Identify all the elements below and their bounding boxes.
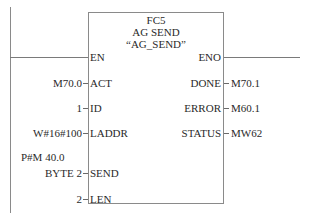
pin-eno: ENO: [198, 51, 221, 63]
eno-wire: [223, 57, 300, 58]
pin-send: SEND: [90, 167, 119, 179]
param-laddr-value[interactable]: W#16#100: [33, 127, 82, 139]
param-send-pointer[interactable]: P#M 40.0: [21, 151, 64, 163]
param-len-value[interactable]: 2: [77, 193, 83, 205]
left-power-rail: [10, 7, 11, 213]
param-send-value[interactable]: BYTE 2: [45, 167, 82, 179]
pin-act-stub: [83, 83, 88, 84]
block-number: FC5: [88, 14, 224, 26]
pin-id: ID: [90, 102, 102, 114]
pin-laddr-stub: [83, 133, 88, 134]
pin-len: LEN: [90, 193, 111, 205]
pin-en: EN: [90, 51, 105, 63]
pin-status-stub: [224, 133, 229, 134]
pin-act: ACT: [90, 77, 112, 89]
function-block-header: FC5 AG SEND “AG_SEND”: [88, 14, 224, 50]
param-id-value[interactable]: 1: [77, 102, 83, 114]
pin-error: ERROR: [184, 102, 221, 114]
pin-done-stub: [224, 83, 229, 84]
pin-done: DONE: [190, 77, 221, 89]
en-wire: [10, 57, 88, 58]
param-act-value[interactable]: M70.0: [53, 77, 82, 89]
pin-error-stub: [224, 108, 229, 109]
param-status-value[interactable]: MW62: [231, 127, 262, 139]
pin-laddr: LADDR: [90, 127, 128, 139]
block-name: AG SEND: [88, 26, 224, 38]
ladder-diagram: FC5 AG SEND “AG_SEND” EN M70.0 ACT 1 ID …: [0, 0, 310, 219]
pin-send-stub: [83, 173, 88, 174]
pin-len-stub: [83, 199, 88, 200]
pin-status: STATUS: [182, 127, 221, 139]
param-error-value[interactable]: M60.1: [231, 102, 260, 114]
block-symbol: “AG_SEND”: [88, 38, 224, 50]
param-done-value[interactable]: M70.1: [231, 77, 260, 89]
pin-id-stub: [83, 108, 88, 109]
